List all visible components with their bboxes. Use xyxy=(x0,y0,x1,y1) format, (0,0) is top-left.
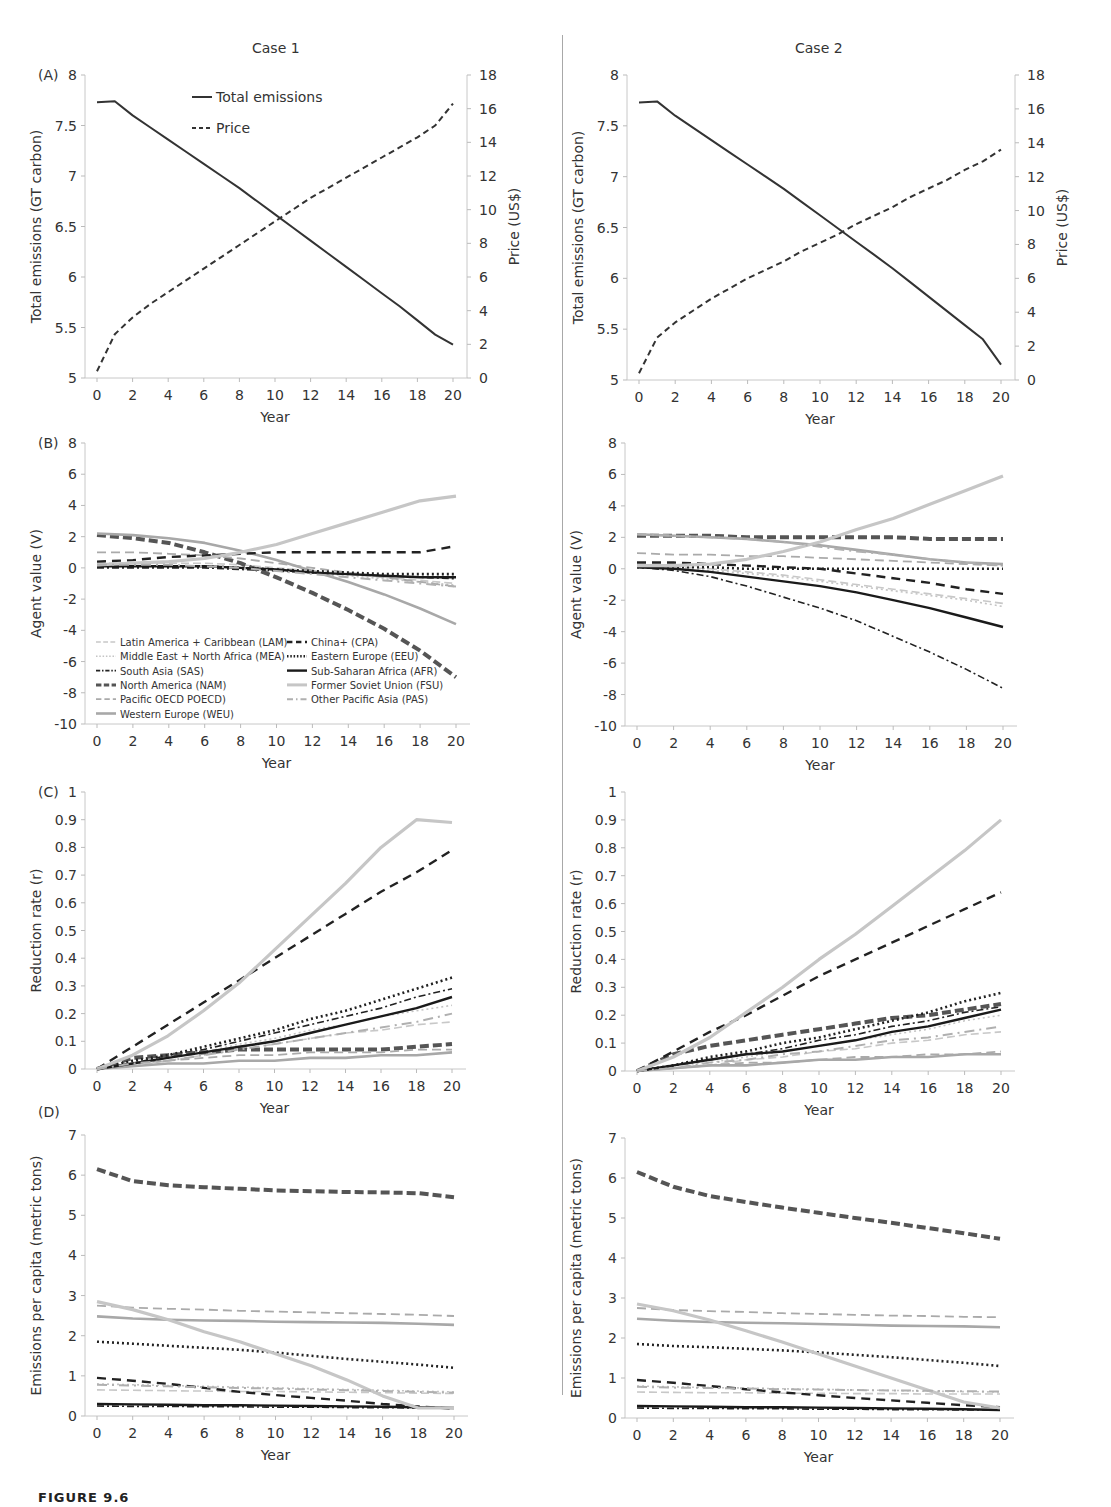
series-price xyxy=(639,150,1001,374)
x-tick-label: 18 xyxy=(957,735,975,751)
y2-tick-label: 2 xyxy=(479,336,488,352)
y-tick-label: 0.8 xyxy=(55,839,77,855)
figure-caption: FIGURE 9.6 xyxy=(38,1490,129,1505)
x-axis-label: Year xyxy=(259,409,290,425)
x-tick-label: 6 xyxy=(199,387,208,403)
x-tick-label: 20 xyxy=(992,389,1010,405)
y-tick-label: 0.9 xyxy=(55,812,77,828)
x-tick-label: 12 xyxy=(301,1078,319,1094)
series-fsu xyxy=(637,476,1003,566)
plot-C-case1: 00.10.20.30.40.50.60.70.80.9102468101214… xyxy=(28,784,466,1116)
plot-A-case2: 55.566.577.5802468101214161820YearTotal … xyxy=(570,67,1070,427)
x-tick-label: 12 xyxy=(846,1427,864,1443)
x-tick-label: 0 xyxy=(93,1425,102,1441)
x-tick-label: 20 xyxy=(994,735,1012,751)
y-tick-label: 7 xyxy=(610,169,619,185)
y2-tick-label: 18 xyxy=(479,67,497,83)
y-tick-label: -2 xyxy=(63,591,77,607)
y2-tick-label: 12 xyxy=(1027,169,1045,185)
y-tick-label: 0.6 xyxy=(55,895,77,911)
y2-tick-label: 4 xyxy=(479,303,488,319)
x-tick-label: 18 xyxy=(411,733,429,749)
y-tick-label: 0.9 xyxy=(595,812,617,828)
series-fsu xyxy=(97,1302,454,1408)
x-tick-label: 14 xyxy=(883,1080,901,1096)
x-tick-label: 18 xyxy=(956,389,974,405)
x-axis-label: Year xyxy=(803,1449,834,1465)
y-tick-label: -6 xyxy=(603,655,617,671)
y2-tick-label: 8 xyxy=(479,235,488,251)
y-tick-label: -4 xyxy=(603,624,617,640)
x-tick-label: 4 xyxy=(705,1080,714,1096)
y2-tick-label: 14 xyxy=(479,134,497,150)
x-tick-label: 14 xyxy=(883,389,901,405)
x-tick-label: 18 xyxy=(409,1425,427,1441)
x-tick-label: 16 xyxy=(374,1425,392,1441)
y2-tick-label: 16 xyxy=(479,101,497,117)
x-tick-label: 6 xyxy=(200,1425,209,1441)
x-tick-label: 8 xyxy=(778,1080,787,1096)
series-cpa xyxy=(637,892,1001,1071)
series-pas xyxy=(97,1385,454,1393)
legend-total-emissions: Total emissions xyxy=(215,89,323,105)
y-tick-label: 0.1 xyxy=(595,1035,617,1051)
x-tick-label: 2 xyxy=(128,1425,137,1441)
y-tick-label: 0.7 xyxy=(595,868,617,884)
x-tick-label: 6 xyxy=(199,1078,208,1094)
y2-tick-label: 4 xyxy=(1027,304,1036,320)
y-tick-label: 2 xyxy=(608,1330,617,1346)
y-tick-label: -8 xyxy=(603,687,617,703)
x-tick-label: 4 xyxy=(706,735,715,751)
series-price xyxy=(97,104,453,372)
series-lam xyxy=(637,1392,1000,1394)
y-tick-label: 6 xyxy=(68,466,77,482)
y-tick-label: 4 xyxy=(608,498,617,514)
x-tick-label: 2 xyxy=(128,1078,137,1094)
x-axis-label: Year xyxy=(260,1447,291,1463)
y-axis-label: Agent value (V) xyxy=(28,529,44,638)
y-tick-label: 8 xyxy=(68,435,77,451)
x-tick-label: 16 xyxy=(375,733,393,749)
y2-tick-label: 6 xyxy=(479,269,488,285)
y-tick-label: 4 xyxy=(68,1247,77,1263)
y-tick-label: 3 xyxy=(68,1288,77,1304)
y-tick-label: 0.7 xyxy=(55,867,77,883)
x-tick-label: 12 xyxy=(846,1080,864,1096)
x-tick-label: 16 xyxy=(920,389,938,405)
plot-D-case2: 0123456702468101214161820YearEmissions p… xyxy=(568,1130,1014,1465)
y-tick-label: 7.5 xyxy=(55,118,77,134)
y-tick-label: 5.5 xyxy=(597,321,619,337)
x-tick-label: 2 xyxy=(669,1080,678,1096)
y2-tick-label: 18 xyxy=(1027,67,1045,83)
y2-tick-label: 14 xyxy=(1027,135,1045,151)
y-tick-label: 0.3 xyxy=(595,979,617,995)
x-tick-label: 16 xyxy=(919,1080,937,1096)
x-tick-label: 10 xyxy=(810,1080,828,1096)
y-axis-label: Total emissions (GT carbon) xyxy=(28,130,44,325)
x-tick-label: 18 xyxy=(408,387,426,403)
y-tick-label: 1 xyxy=(68,1368,77,1384)
y-tick-label: -2 xyxy=(603,592,617,608)
x-tick-label: 6 xyxy=(741,1427,750,1443)
x-tick-label: 8 xyxy=(235,387,244,403)
figure-9-6: Case 1 Case 2 (A) (B) (C) (D) 55.566.577… xyxy=(0,0,1111,1507)
x-tick-label: 0 xyxy=(633,1080,642,1096)
x-tick-label: 4 xyxy=(707,389,716,405)
y-tick-label: 5 xyxy=(608,1210,617,1226)
series-fsu xyxy=(97,496,456,565)
x-tick-label: 12 xyxy=(302,387,320,403)
y-tick-label: 5 xyxy=(68,370,77,386)
y-axis-label: Total emissions (GT carbon) xyxy=(570,131,586,326)
series-weu xyxy=(637,1319,1000,1327)
y-tick-label: 6 xyxy=(608,466,617,482)
x-axis-label: Year xyxy=(804,757,835,773)
y-tick-label: 6.5 xyxy=(597,220,619,236)
plot-D-case1: 0123456702468101214161820YearEmissions p… xyxy=(28,1127,468,1463)
y-tick-label: 0.8 xyxy=(595,840,617,856)
y-axis-label: Emissions per capita (metric tons) xyxy=(28,1156,44,1396)
x-tick-label: 16 xyxy=(372,1078,390,1094)
x-tick-label: 10 xyxy=(266,1078,284,1094)
legend-regions: Latin America + Caribbean (LAM)China+ (C… xyxy=(96,637,443,720)
y-axis-label: Reduction rate (r) xyxy=(28,868,44,992)
x-axis-label: Year xyxy=(803,1102,834,1118)
